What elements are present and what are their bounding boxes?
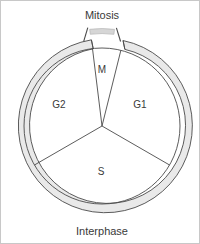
- divider-m-g1: [102, 50, 121, 126]
- phase-s-label: S: [98, 166, 105, 177]
- divider-s-g2: [34, 126, 102, 165]
- divider-m-g2: [92, 49, 102, 126]
- mitosis-label: Mitosis: [85, 9, 119, 21]
- divider-g1-s: [102, 126, 170, 165]
- phase-g2-label: G2: [52, 99, 65, 110]
- cell-cycle-diagram: Mitosis M G1 G2 S Interphase: [0, 0, 200, 244]
- mitosis-bracket-arc: [90, 29, 115, 35]
- cell-cycle-svg: [1, 1, 200, 244]
- mitosis-bracket-tick-right: [116, 28, 120, 42]
- mitosis-bracket-tick-left: [84, 28, 88, 42]
- interphase-label: Interphase: [76, 225, 128, 237]
- phase-g1-label: G1: [133, 99, 146, 110]
- phase-m-label: M: [98, 64, 106, 75]
